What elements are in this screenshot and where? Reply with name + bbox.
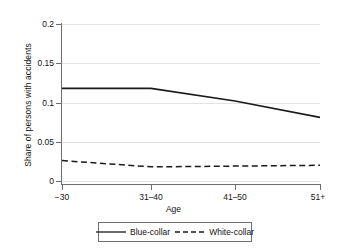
legend-key-solid-line bbox=[96, 228, 126, 236]
y-tick-mark-3 bbox=[56, 63, 61, 64]
y-tick-mark-0 bbox=[56, 181, 61, 182]
y-tick-label-0: 0 bbox=[49, 176, 54, 186]
legend-item-white-collar[interactable]: White-collar bbox=[175, 227, 254, 237]
legend-item-blue-collar[interactable]: Blue-collar bbox=[96, 227, 170, 237]
x-tick-mark-1 bbox=[151, 185, 152, 190]
x-tick-label-2: 41–50 bbox=[223, 192, 247, 202]
y-tick-mark-2 bbox=[56, 103, 61, 104]
y-tick-mark-1 bbox=[56, 142, 61, 143]
x-tick-mark-3 bbox=[320, 185, 321, 190]
series-line-white-collar bbox=[62, 161, 320, 167]
x-tick-label-1: 31–40 bbox=[139, 192, 163, 202]
x-tick-mark-0 bbox=[62, 185, 63, 190]
legend-label-blue-collar: Blue-collar bbox=[130, 227, 170, 237]
y-tick-label-3: 0.15 bbox=[37, 58, 54, 68]
x-tick-label-0: −30 bbox=[55, 192, 69, 202]
x-axis-title: Age bbox=[0, 204, 347, 214]
y-tick-label-4: 0.2 bbox=[42, 19, 54, 29]
chart-legend: Blue-collar White-collar bbox=[98, 222, 252, 242]
legend-label-white-collar: White-collar bbox=[209, 227, 254, 237]
chart-figure: Share of persons with accidents 0 0.05 0… bbox=[0, 0, 347, 249]
y-tick-label-2: 0.1 bbox=[42, 98, 54, 108]
x-tick-label-3: 51+ bbox=[311, 192, 325, 202]
y-tick-mark-4 bbox=[56, 24, 61, 25]
y-tick-label-1: 0.05 bbox=[37, 137, 54, 147]
gridline-0 bbox=[62, 181, 320, 182]
series-line-blue-collar bbox=[62, 88, 320, 117]
x-tick-mark-2 bbox=[235, 185, 236, 190]
legend-key-dashed-line bbox=[175, 228, 205, 236]
series-container bbox=[62, 24, 320, 181]
y-axis-title: Share of persons with accidents bbox=[23, 15, 33, 195]
x-axis-line bbox=[61, 184, 321, 185]
